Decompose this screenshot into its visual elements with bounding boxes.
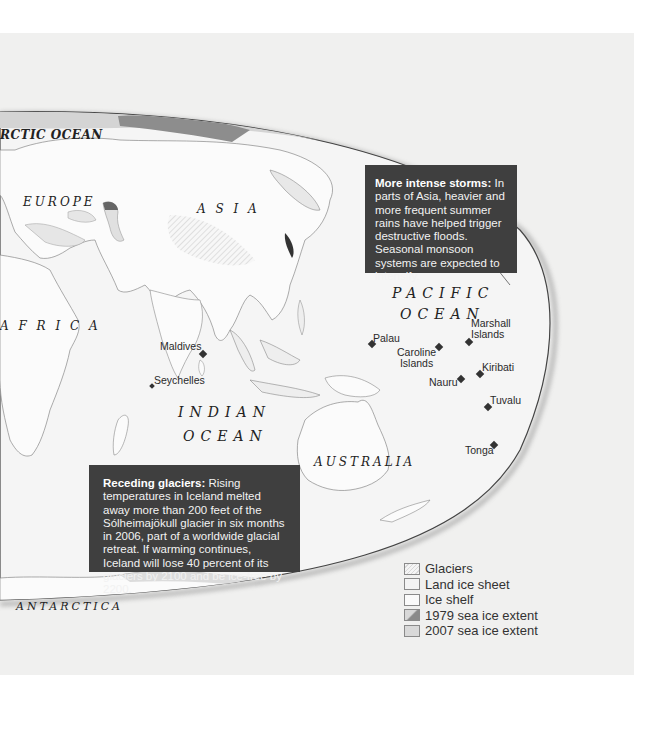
sea-ice-1979-swatch-icon: [404, 609, 420, 621]
label-kiribati: Kiribati: [482, 362, 514, 373]
label-africa: A F R I C A: [0, 319, 101, 333]
caroline-line2: Islands: [397, 358, 436, 369]
label-maldives: Maldives: [160, 341, 201, 352]
label-australia: AUSTRALIA: [314, 455, 415, 469]
label-nauru: Nauru: [429, 377, 458, 388]
label-tonga: Tonga: [465, 445, 494, 456]
legend-label-land-ice-sheet: Land ice sheet: [425, 577, 510, 592]
legend-label-glaciers: Glaciers: [425, 561, 473, 576]
legend-item-ice-shelf: Ice shelf: [404, 592, 538, 608]
legend-label-ice-shelf: Ice shelf: [425, 592, 473, 607]
callout-intense-storms: More intense storms: In parts of Asia, h…: [365, 165, 517, 273]
label-europe: EUROPE: [23, 195, 96, 209]
legend-item-2007-sea-ice: 2007 sea ice extent: [404, 623, 538, 639]
ice-shelf-swatch-icon: [404, 594, 420, 606]
callout-receding-glaciers: Receding glaciers: Rising temperatures i…: [89, 465, 300, 572]
label-antarctica: ANTARCTICA: [16, 600, 123, 613]
marshall-line2: Islands: [471, 329, 511, 340]
label-seychelles: Seychelles: [154, 375, 205, 386]
map-legend: Glaciers Land ice sheet Ice shelf 1979 s…: [404, 561, 538, 639]
legend-item-1979-sea-ice: 1979 sea ice extent: [404, 608, 538, 624]
sea-ice-2007-swatch-icon: [404, 625, 420, 637]
world-map: [0, 0, 667, 732]
label-pacific-ocean-line1: PACIFIC: [392, 285, 494, 301]
label-tuvalu: Tuvalu: [490, 395, 521, 406]
label-arctic-ocean: RCTIC OCEAN: [0, 128, 103, 142]
label-indian-ocean-line1: INDIAN: [178, 404, 271, 420]
label-marshall-islands: Marshall Islands: [471, 318, 511, 340]
callout-storms-title: More intense storms:: [375, 177, 491, 189]
callout-glaciers-body: Rising temperatures in Iceland melted aw…: [103, 477, 285, 595]
legend-item-glaciers: Glaciers: [404, 561, 538, 577]
label-asia: A S I A: [197, 202, 260, 216]
legend-item-land-ice-sheet: Land ice sheet: [404, 577, 538, 593]
label-indian-ocean-line2: OCEAN: [183, 428, 268, 444]
land-ice-sheet-swatch-icon: [404, 578, 420, 590]
glaciers-swatch-icon: [404, 563, 420, 575]
callout-glaciers-title: Receding glaciers:: [103, 477, 205, 489]
legend-label-1979-sea-ice: 1979 sea ice extent: [425, 608, 538, 623]
callout-storms-body: In parts of Asia, heavier and more frequ…: [375, 177, 505, 282]
label-caroline-islands: Caroline Islands: [397, 347, 436, 369]
legend-label-2007-sea-ice: 2007 sea ice extent: [425, 623, 538, 638]
label-palau: Palau: [373, 333, 400, 344]
